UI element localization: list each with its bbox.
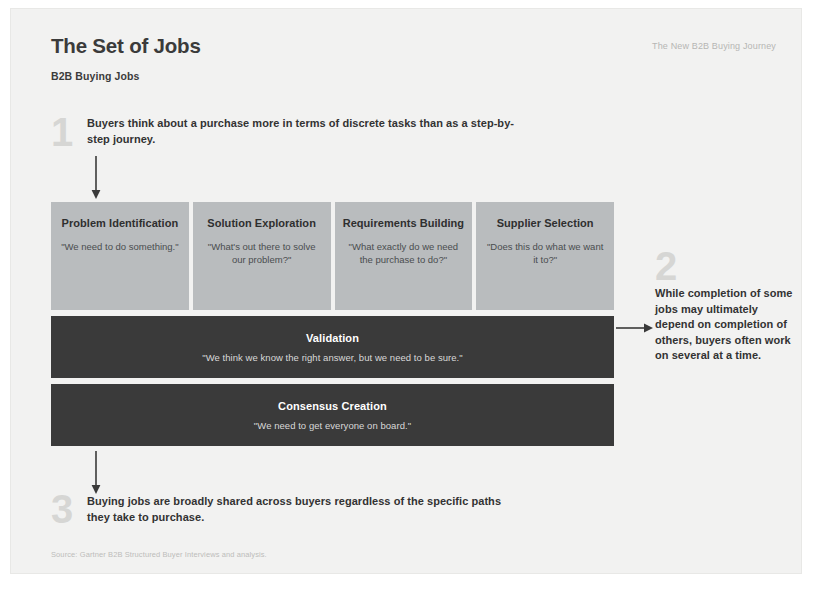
job-card-quote: "What exactly do we need the purchase to… [343, 240, 465, 268]
job-card-title: Solution Exploration [201, 216, 323, 231]
slide-canvas: The Set of Jobs B2B Buying Jobs The New … [10, 8, 802, 574]
source-note: Source: Gartner B2B Structured Buyer Int… [51, 550, 267, 559]
job-card-title: Problem Identification [59, 216, 181, 231]
page-title: The Set of Jobs [51, 34, 201, 58]
job-bar-validation: Validation "We think we know the right a… [51, 316, 614, 378]
job-bar-title: Validation [51, 332, 614, 344]
job-bar-quote: "We need to get everyone on board." [51, 420, 614, 431]
callout-text-1: Buyers think about a purchase more in te… [87, 116, 517, 147]
job-card: Requirements Building "What exactly do w… [335, 202, 473, 310]
job-card-grid: Problem Identification "We need to do so… [51, 202, 614, 310]
job-bar-title: Consensus Creation [51, 400, 614, 412]
callout-text-2: While completion of some jobs may ultima… [655, 286, 795, 364]
job-bar-consensus: Consensus Creation "We need to get every… [51, 384, 614, 446]
arrow-right-icon [616, 321, 654, 335]
callout-number-2: 2 [655, 246, 676, 286]
deck-label: The New B2B Buying Journey [652, 41, 776, 51]
job-card: Supplier Selection "Does this do what we… [476, 202, 614, 310]
arrow-down-icon [89, 156, 103, 200]
job-card-title: Supplier Selection [484, 216, 606, 231]
page-subtitle: B2B Buying Jobs [51, 70, 139, 82]
job-card-title: Requirements Building [343, 216, 465, 231]
job-card-quote: "We need to do something." [59, 240, 181, 254]
callout-number-1: 1 [51, 112, 72, 152]
job-card-quote: "Does this do what we want it to?" [484, 240, 606, 268]
callout-text-3: Buying jobs are broadly shared across bu… [87, 494, 517, 525]
job-card: Problem Identification "We need to do so… [51, 202, 189, 310]
arrow-down-icon [89, 451, 103, 495]
job-card: Solution Exploration "What's out there t… [193, 202, 331, 310]
job-bar-quote: "We think we know the right answer, but … [51, 352, 614, 363]
callout-number-3: 3 [51, 489, 72, 529]
job-card-quote: "What's out there to solve our problem?" [201, 240, 323, 268]
